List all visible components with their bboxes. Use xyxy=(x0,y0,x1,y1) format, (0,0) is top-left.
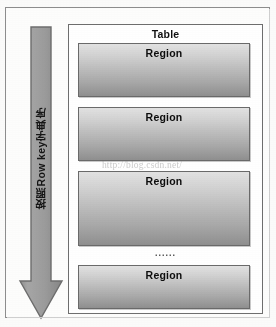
outer-frame: 按照Row key字典序 Table Region Region Region … xyxy=(5,7,270,318)
region-box: Region xyxy=(78,43,250,97)
region-label: Region xyxy=(79,111,249,123)
down-arrow-icon xyxy=(18,26,64,320)
region-label: Region xyxy=(79,175,249,187)
region-box: Region xyxy=(78,171,250,246)
region-label: Region xyxy=(79,47,249,59)
region-box: Region xyxy=(78,265,250,309)
region-box: Region xyxy=(78,107,250,161)
region-label: Region xyxy=(79,269,249,281)
row-key-order-arrow: 按照Row key字典序 xyxy=(18,26,64,320)
table-title: Table xyxy=(69,28,262,40)
table-panel: Table Region Region Region ...... Region xyxy=(68,24,263,314)
region-ellipsis: ...... xyxy=(69,249,262,258)
diagram-figure: 按照Row key字典序 Table Region Region Region … xyxy=(0,0,276,327)
